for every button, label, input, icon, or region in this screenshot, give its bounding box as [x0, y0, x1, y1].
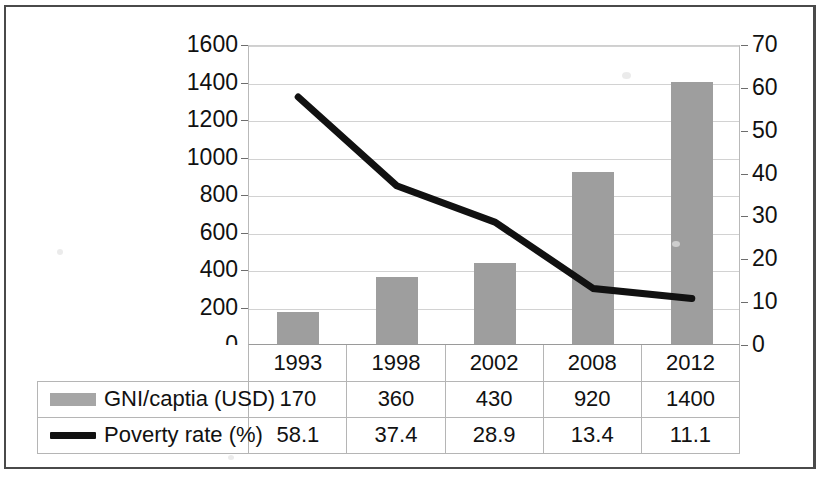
left-axis-tick-label: 400 [200, 258, 238, 281]
bar-2008 [572, 172, 614, 345]
left-tick-mark [241, 270, 248, 271]
left-tick-mark [241, 83, 248, 84]
legend-label: GNI/captia (USD) [104, 386, 275, 412]
value-cell-2008: 920 [543, 381, 641, 417]
left-tick-mark [241, 308, 248, 309]
bar-1998 [376, 277, 418, 345]
year-cell-2008: 2008 [543, 345, 641, 381]
bar-swatch-icon [50, 393, 96, 406]
left-axis-tick-label: 800 [200, 183, 238, 206]
plot-area [248, 45, 740, 345]
value-cell-2012: 1400 [641, 381, 739, 417]
scan-artifact [622, 72, 631, 79]
table-row: Poverty rate (%)58.137.428.913.411.1 [38, 417, 740, 453]
left-axis-tick-label: 1200 [187, 108, 238, 131]
year-cell-1998: 1998 [347, 345, 445, 381]
year-cell-2012: 2012 [641, 345, 739, 381]
scan-artifact [228, 455, 234, 460]
chart-screenshot: 16001400120010008006004002000 7060504030… [0, 0, 827, 477]
left-tick-mark [241, 158, 248, 159]
right-tick-mark [741, 174, 748, 175]
right-tick-mark [741, 216, 748, 217]
scan-artifact [672, 241, 680, 247]
table-row: GNI/captia (USD)1703604309201400 [38, 381, 740, 417]
left-tick-mark [241, 45, 248, 46]
value-cell-2008: 13.4 [543, 417, 641, 453]
bar-2012 [671, 82, 713, 345]
legend-label: Poverty rate (%) [104, 422, 263, 448]
right-axis: 706050403020100 [752, 45, 812, 345]
right-tick-mark [741, 345, 748, 346]
bar-series-layer [249, 46, 739, 344]
scan-artifact [57, 249, 63, 255]
bar-2002 [474, 263, 516, 344]
chart-figure: 16001400120010008006004002000 7060504030… [0, 0, 827, 477]
left-tick-mark [241, 195, 248, 196]
right-tick-mark [741, 131, 748, 132]
value-cell-1993: 58.1 [249, 417, 347, 453]
right-axis-tick-label: 40 [752, 162, 778, 185]
right-tick-mark [741, 45, 748, 46]
left-axis-tick-label: 1600 [187, 33, 238, 56]
right-tick-mark [741, 88, 748, 89]
year-cell-2002: 2002 [445, 345, 543, 381]
left-tick-mark [241, 120, 248, 121]
right-axis-tick-label: 20 [752, 247, 778, 270]
left-axis: 16001400120010008006004002000 [150, 45, 238, 345]
left-axis-tick-label: 1400 [187, 71, 238, 94]
right-axis-tick-label: 50 [752, 119, 778, 142]
left-axis-tick-label: 1000 [187, 146, 238, 169]
left-tick-mark [241, 233, 248, 234]
right-axis-tick-label: 70 [752, 33, 778, 56]
value-cell-1998: 360 [347, 381, 445, 417]
legend-cell-poverty: Poverty rate (%) [38, 417, 249, 453]
left-axis-tick-label: 600 [200, 221, 238, 244]
value-cell-2012: 11.1 [641, 417, 739, 453]
value-cell-2002: 430 [445, 381, 543, 417]
year-cell-1993: 1993 [249, 345, 347, 381]
value-cell-1998: 37.4 [347, 417, 445, 453]
right-axis-tick-label: 60 [752, 76, 778, 99]
data-legend-table: 19931998200220082012GNI/captia (USD)1703… [37, 345, 740, 454]
table-corner-cell [38, 345, 249, 381]
right-axis-tick-label: 0 [752, 333, 765, 356]
right-axis-tick-label: 30 [752, 204, 778, 227]
right-axis-tick-label: 10 [752, 290, 778, 313]
legend-cell-gni: GNI/captia (USD) [38, 381, 249, 417]
line-swatch-icon [50, 432, 96, 439]
bar-1993 [277, 312, 319, 344]
left-axis-tick-label: 200 [200, 296, 238, 319]
right-tick-mark [741, 302, 748, 303]
value-cell-2002: 28.9 [445, 417, 543, 453]
right-tick-mark [741, 259, 748, 260]
table-row-years: 19931998200220082012 [38, 345, 740, 381]
